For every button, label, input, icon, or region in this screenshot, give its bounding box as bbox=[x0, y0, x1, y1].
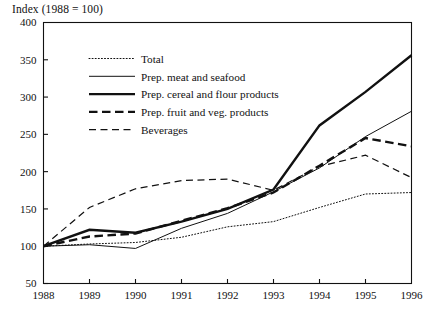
y-tick-label: 300 bbox=[20, 91, 37, 103]
x-tick-label: 1991 bbox=[171, 289, 193, 301]
x-tick-label: 1996 bbox=[401, 289, 424, 301]
x-axis-ticks bbox=[90, 279, 366, 284]
legend-item-label: Prep. meat and seafood bbox=[141, 71, 246, 83]
line-chart-plot: 50100150200250300350400 1988198919901991… bbox=[0, 0, 441, 314]
x-tick-label: 1995 bbox=[355, 289, 378, 301]
x-tick-label: 1988 bbox=[33, 289, 56, 301]
data-series-line bbox=[44, 55, 412, 246]
y-axis-ticks bbox=[44, 60, 49, 284]
data-series-line bbox=[44, 111, 412, 248]
plot-frame bbox=[44, 23, 412, 284]
y-tick-label: 100 bbox=[20, 240, 37, 252]
legend-item-label: Prep. fruit and veg. products bbox=[141, 106, 268, 118]
y-tick-label: 250 bbox=[20, 128, 37, 140]
y-axis-tick-labels: 50100150200250300350400 bbox=[20, 16, 37, 289]
x-tick-label: 1992 bbox=[217, 289, 239, 301]
x-tick-label: 1990 bbox=[125, 289, 148, 301]
x-tick-label: 1994 bbox=[309, 289, 332, 301]
x-tick-label: 1993 bbox=[263, 289, 286, 301]
x-tick-label: 1989 bbox=[79, 289, 102, 301]
chart-legend: TotalPrep. meat and seafoodPrep. cereal … bbox=[89, 53, 279, 136]
legend-item-label: Total bbox=[141, 53, 164, 65]
legend-item-label: Beverages bbox=[141, 124, 188, 136]
y-tick-label: 200 bbox=[20, 166, 37, 178]
data-series-group bbox=[44, 55, 412, 248]
data-series-line bbox=[44, 155, 412, 246]
legend-item-label: Prep. cereal and flour products bbox=[141, 88, 279, 100]
chart-container: Index (1988 = 100) 501001502002503003504… bbox=[0, 0, 441, 314]
y-tick-label: 150 bbox=[20, 203, 37, 215]
y-tick-label: 350 bbox=[20, 54, 37, 66]
data-series-line bbox=[44, 193, 412, 247]
x-axis-tick-labels: 198819891990199119921993199419951996 bbox=[33, 289, 424, 301]
y-tick-label: 400 bbox=[20, 16, 37, 28]
